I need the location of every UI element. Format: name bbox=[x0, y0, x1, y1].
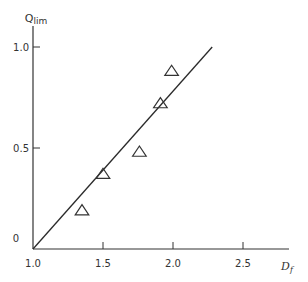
x-tick-label: 1.0 bbox=[25, 258, 41, 269]
x-tick-label: 2.0 bbox=[165, 258, 181, 269]
axis-labels: Qlim Df bbox=[25, 12, 295, 274]
triangle-marker-icon bbox=[75, 205, 89, 215]
triangle-marker-icon bbox=[165, 65, 179, 75]
y-tick-label: 1.0 bbox=[13, 42, 29, 53]
triangle-marker-icon bbox=[133, 146, 147, 156]
fit-line-path bbox=[33, 47, 212, 249]
y-axis-label: Qlim bbox=[25, 12, 47, 26]
x-tick-label: 2.5 bbox=[235, 258, 251, 269]
scatter-chart: 1.01.52.02.500.51.0 Qlim Df bbox=[0, 0, 308, 282]
ticks: 1.01.52.02.500.51.0 bbox=[13, 42, 251, 270]
x-tick-label: 1.5 bbox=[95, 258, 111, 269]
fit-line bbox=[33, 47, 212, 249]
x-axis-label: Df bbox=[280, 260, 295, 274]
data-markers bbox=[75, 65, 178, 215]
y-tick-label: 0.5 bbox=[13, 143, 29, 154]
axes bbox=[33, 26, 289, 249]
y-tick-label: 0 bbox=[13, 233, 19, 244]
